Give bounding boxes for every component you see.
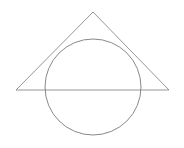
background [0,0,184,148]
geometry-diagram [0,0,184,148]
